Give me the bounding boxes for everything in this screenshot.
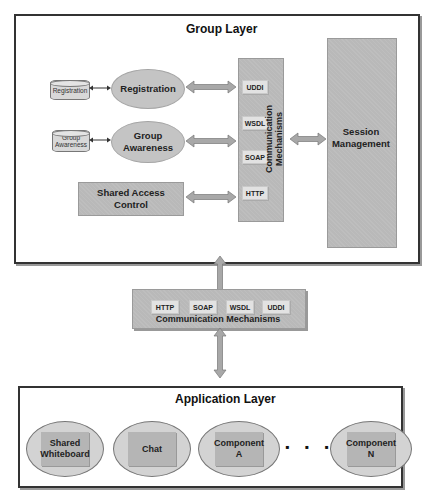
double-arrow-icon (186, 134, 236, 148)
vertical-double-arrow-icon (213, 328, 227, 378)
session-management-label: Session Management (330, 126, 392, 150)
registration-label: Registration (120, 83, 175, 95)
protocol-uddi: UDDI (262, 300, 290, 314)
double-arrow-icon (290, 132, 326, 146)
component-chat: Chat (113, 421, 191, 477)
component-label: Chat (128, 432, 176, 466)
thin-double-arrow-icon (89, 136, 111, 144)
protocol-soap: SOAP (189, 300, 217, 314)
component-n: Component N (330, 421, 412, 477)
component-label: Component A (215, 432, 263, 466)
component-shared-whiteboard: Shared Whiteboard (26, 421, 104, 477)
registration-db-label: Registration (53, 87, 88, 94)
registration-database-icon: Registration (50, 80, 90, 100)
group-awareness-db-label: Group Awareness (53, 134, 89, 148)
double-arrow-icon (186, 190, 236, 204)
ellipsis-dots: ▪ ▪ ▪ (285, 440, 334, 454)
component-a: Component A (198, 421, 280, 477)
component-label: Component N (347, 432, 395, 466)
shared-access-control-label: Shared Access Control (91, 187, 171, 211)
registration-node: Registration (111, 69, 185, 109)
shared-access-control-box: Shared Access Control (78, 182, 184, 216)
application-layer-title: Application Layer (175, 392, 276, 406)
group-awareness-label: Group Awareness (118, 130, 178, 154)
double-arrow-icon (186, 80, 236, 94)
thin-double-arrow-icon (89, 84, 111, 92)
communication-mechanisms-vertical-label: Communication Mechanisms (264, 79, 276, 199)
group-awareness-database-icon: Group Awareness (52, 130, 90, 152)
group-awareness-node: Group Awareness (111, 121, 185, 163)
component-label: Shared Whiteboard (41, 432, 89, 466)
group-layer-title: Group Layer (186, 22, 257, 36)
protocol-wsdl: WSDL (226, 300, 254, 314)
protocol-http: HTTP (151, 300, 179, 314)
communication-mechanisms-horizontal-label: Communication Mechanisms (132, 314, 304, 324)
